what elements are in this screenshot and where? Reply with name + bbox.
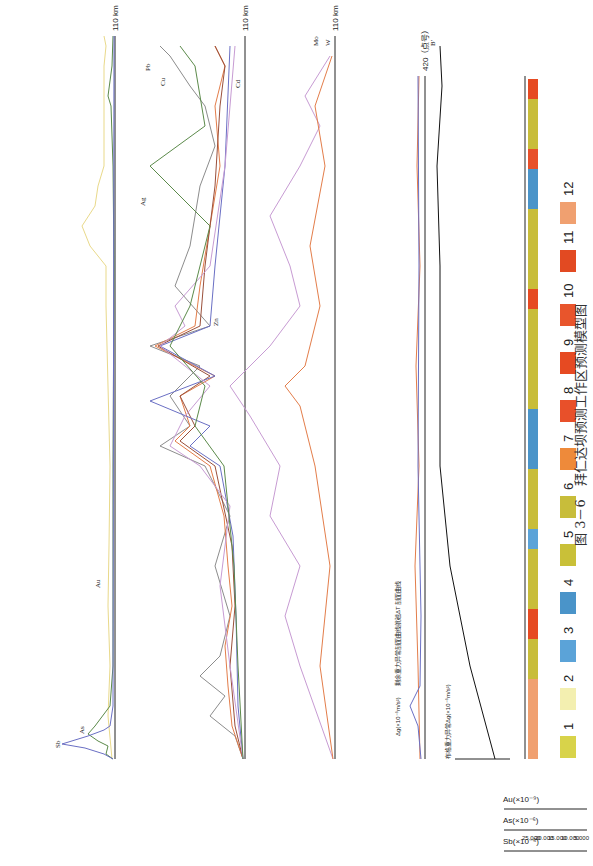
label-w: W [324, 39, 332, 46]
figure-canvas: Sb(×10⁻⁶) As(×10⁻⁶) Au(×10⁻⁹) 25.000 20.… [0, 0, 593, 866]
axis-label-as: As(×10⁻⁶) [503, 816, 539, 825]
dg-label: Δg(×10⁻⁵m/s²) [395, 697, 401, 736]
label-ag: Ag [139, 197, 147, 206]
figure-caption: 图 3－6 拜仁达坝预测工作区预测模型图 [573, 304, 588, 546]
svg-text:2: 2 [561, 675, 576, 682]
label-cd: Cd [234, 79, 242, 88]
legend-swatch-3 [560, 640, 576, 662]
svg-text:110 km: 110 km [241, 5, 250, 31]
annot-magnetic: 剩余重力异常剖面曲线 [394, 626, 402, 686]
sb-line [62, 36, 114, 759]
label-mo: Mo [312, 36, 320, 46]
svg-text:10: 10 [561, 284, 576, 298]
panel-sb-as-au: Sb(×10⁻⁶) As(×10⁻⁶) Au(×10⁻⁹) 25.000 20.… [54, 5, 590, 851]
label-as: As [78, 726, 86, 734]
w-line [285, 56, 333, 759]
label-au: Au [94, 579, 102, 588]
x-axis-unit: 110 km [111, 5, 120, 31]
bouguer-title: 布格重力异常Δg(×10⁻⁵m/s²) [444, 684, 452, 759]
annot-gravity: 航磁ΔT 剖面曲线 [394, 581, 402, 626]
legend-swatch-2 [560, 688, 576, 710]
label-cu: Cu [159, 77, 167, 86]
bouguer-line [437, 46, 495, 759]
au-line [82, 36, 112, 759]
legend-swatch-5 [560, 544, 576, 566]
as-line [88, 36, 114, 759]
panel-magnetic: 420（点号） Δg(×10⁻⁵m/s²) 剩余重力异常剖面曲线 航磁ΔT 剖面… [394, 26, 430, 759]
gravity-residual-line [415, 76, 420, 759]
svg-text:3: 3 [561, 627, 576, 634]
label-zn: Zn [212, 318, 220, 326]
unit-o3j2o [528, 679, 538, 759]
svg-text:420（点号）: 420（点号） [421, 26, 430, 71]
panel-section [525, 76, 538, 759]
label-sb: Sb [54, 740, 62, 748]
svg-text:110 km: 110 km [331, 5, 340, 31]
legend-swatch-12 [560, 202, 576, 224]
legend-swatch-4 [560, 592, 576, 614]
point-b-prime: B' [429, 40, 437, 46]
svg-text:5.000: 5.000 [574, 835, 590, 841]
label-pb: Pb [144, 63, 152, 71]
cd-line [160, 46, 243, 759]
svg-text:12: 12 [561, 182, 576, 196]
svg-text:11: 11 [561, 231, 576, 245]
axis-label-au: Au(×10⁻⁹) [503, 795, 539, 804]
panel-mo-w: 110 km Mo W [230, 5, 340, 759]
svg-text:1: 1 [561, 723, 576, 730]
rotated-figure: Sb(×10⁻⁶) As(×10⁻⁶) Au(×10⁻⁹) 25.000 20.… [0, 0, 593, 866]
svg-text:4: 4 [561, 579, 576, 586]
ticks-sb: 25.000 20.000 15.000 10.000 5.000 [522, 835, 590, 841]
panel-bouguer: 布格重力异常Δg(×10⁻⁵m/s²) B' [429, 40, 510, 759]
legend-swatch-1 [560, 736, 576, 758]
legend-swatch-11 [560, 250, 576, 272]
magnetic-line [410, 76, 421, 759]
